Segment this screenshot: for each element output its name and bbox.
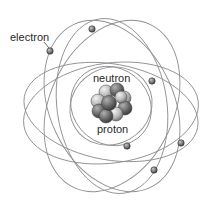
nucleon — [99, 109, 113, 123]
nucleon — [115, 91, 127, 103]
electron-4 — [124, 143, 130, 149]
electron-2 — [89, 26, 95, 32]
electron-6 — [178, 140, 184, 146]
nucleus — [91, 83, 132, 123]
atom-diagram: electron neutron proton — [0, 0, 208, 203]
label-proton: proton — [97, 123, 128, 135]
label-neutron: neutron — [93, 72, 130, 84]
electron-1 — [47, 48, 53, 54]
label-electron: electron — [10, 31, 49, 43]
electron-5 — [151, 167, 157, 173]
electron-3 — [149, 78, 155, 84]
nucleon — [102, 96, 117, 111]
